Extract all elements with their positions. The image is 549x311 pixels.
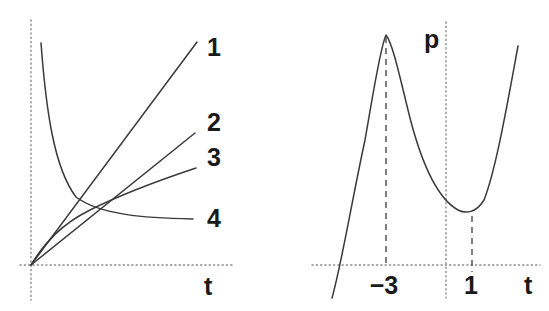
left-panel-svg: 1 2 3 4 t: [0, 0, 275, 311]
left-x-axis-label: t: [204, 272, 213, 300]
right-panel-cubic-polynomial: p −3 1 t: [275, 0, 549, 311]
left-panel-growth-comparison: 1 2 3 4 t: [0, 0, 275, 311]
right-y-axis-label: p: [424, 25, 439, 53]
curve-3-path: [31, 168, 196, 265]
curve-4-path: [41, 43, 193, 219]
tick-label-minus-three: −3: [370, 271, 399, 299]
curve-label-1: 1: [207, 33, 221, 61]
figure-root: 1 2 3 4 t p −3 1 t: [0, 0, 549, 311]
curve-label-3: 3: [207, 143, 221, 171]
curve-label-2: 2: [207, 108, 221, 136]
curve-label-4: 4: [207, 204, 221, 232]
right-x-axis-label: t: [524, 271, 533, 299]
cubic-curve-path: [332, 35, 518, 298]
right-panel-svg: p −3 1 t: [275, 0, 549, 311]
tick-label-one: 1: [464, 271, 478, 299]
